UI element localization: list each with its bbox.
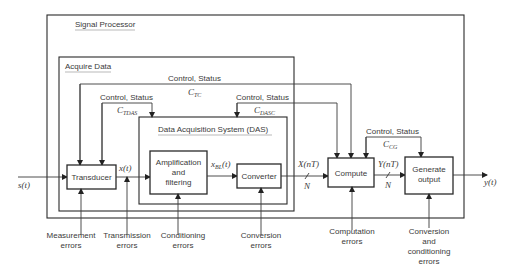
conversion-errors-line1: Conversion [241,231,281,240]
amp-line3: filtering [166,178,192,187]
signal-processor-label: Signal Processor [75,20,136,29]
convcond-errors-line3: conditioning [408,247,451,256]
ctc-symbol: CTC [188,87,202,98]
ccg-symbol: CCG [383,139,398,150]
YnT-label: Y(nT) [378,159,399,169]
ccg-control-label: Control, Status [366,127,419,136]
convcond-errors-line4: errors [419,257,440,266]
conditioning-errors-line1: Conditioning [161,231,205,240]
generate-line1: Generate [412,165,446,174]
compute-label: Compute [335,169,368,178]
N2-label: N [384,180,392,190]
xbl-label: xBL(t) [210,159,231,170]
amp-line2: and [172,168,185,177]
amp-line1: Amplification [156,158,201,167]
ctdas-symbol: CTDAS [117,105,137,116]
acquire-data-label: Acquire Data [65,62,112,71]
measurement-errors-line2: errors [61,241,82,250]
N1-label: N [303,181,311,191]
cdasc-control-label: Control, Status [236,93,289,102]
measurement-errors-line1: Measurement [47,231,97,240]
convcond-errors-line2: and [422,237,435,246]
output-signal-label: y(t) [483,177,497,187]
convcond-errors-line1: Conversion [409,227,449,236]
transmission-errors-line1: Transmission [103,231,150,240]
cdasc-symbol: CDASC [254,105,276,116]
XnT-label: X(nT) [297,159,319,169]
transmission-errors-line2: errors [117,241,138,250]
ctc-control-label: Control, Status [168,74,221,83]
xt-label: x(t) [118,163,132,173]
das-label: Data Acquisition System (DAS) [158,125,269,134]
signal-processor-diagram: Signal Processor Acquire Data Data Acqui… [0,0,513,277]
conversion-errors-line2: errors [251,241,272,250]
ctdas-control-label: Control, Status [100,93,153,102]
transducer-label: Transducer [71,173,112,182]
converter-label: Converter [241,172,276,181]
input-signal-label: s(t) [18,180,30,190]
computation-errors-line1: Computation [329,227,374,236]
computation-errors-line2: errors [342,237,363,246]
conditioning-errors-line2: errors [173,241,194,250]
generate-line2: output [418,175,441,184]
